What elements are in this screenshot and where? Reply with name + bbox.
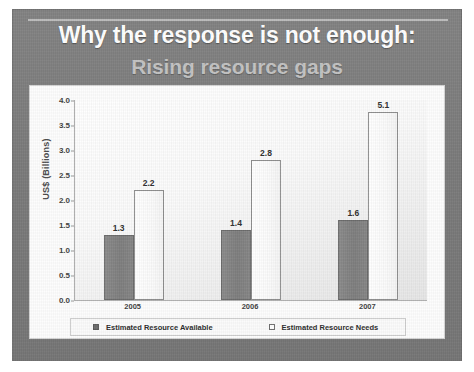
chart-plot-wrapper: US$ (Billions) 4.03.53.02.52.01.51.00.50… [30,86,444,312]
chart-card: US$ (Billions) 4.03.53.02.52.01.51.00.50… [30,86,444,338]
slide-title: Why the response is not enough: [12,22,462,49]
bar-value-label: 2.8 [243,148,289,158]
bar-value-label: 5.1 [360,100,406,110]
y-axis-tick: 4.0 [44,96,70,105]
legend-item: Estimated Resource Available [93,323,213,332]
bar-resource-needs [134,190,164,300]
title-divider-rule [28,19,448,21]
bar-group: 1.42.8 [192,100,309,300]
bar-group: 1.32.2 [75,100,192,300]
legend-item: Estimated Resource Needs [269,323,379,332]
bar-resource-available [338,220,368,300]
slide-subtitle: Rising resource gaps [12,55,462,79]
legend-swatch-hollow-icon [269,324,275,330]
bar-resource-available [221,230,251,300]
slide-frame: Why the response is not enough: Rising r… [12,9,462,361]
x-axis-tick-label: 2005 [103,302,163,311]
bar-value-label: 2.2 [126,178,172,188]
y-axis-tick: 0.0 [44,296,70,305]
legend-label: Estimated Resource Available [106,323,213,332]
chart-legend: Estimated Resource AvailableEstimated Re… [70,318,406,336]
y-axis-tick: 2.0 [44,196,70,205]
plot-area: 1.32.21.42.81.65.1 [74,100,427,301]
x-axis-category-labels: 200520062007 [74,302,426,316]
bar-resource-needs [368,112,398,300]
y-axis-tick: 1.5 [44,221,70,230]
bar-resource-available [104,235,134,300]
legend-swatch-filled-icon [93,324,99,330]
legend-label: Estimated Resource Needs [282,323,379,332]
x-axis-tick-label: 2006 [220,302,280,311]
bar-resource-needs [251,160,281,300]
y-axis-tick: 2.5 [44,171,70,180]
y-axis-tick: 3.0 [44,146,70,155]
y-axis-tick: 3.5 [44,121,70,130]
y-axis-tick: 1.0 [44,246,70,255]
y-axis-tick: 0.5 [44,271,70,280]
bar-group: 1.65.1 [310,100,427,300]
x-axis-tick-label: 2007 [337,302,397,311]
y-axis-tick-labels: 4.03.53.02.52.01.51.00.50.0 [44,100,70,300]
